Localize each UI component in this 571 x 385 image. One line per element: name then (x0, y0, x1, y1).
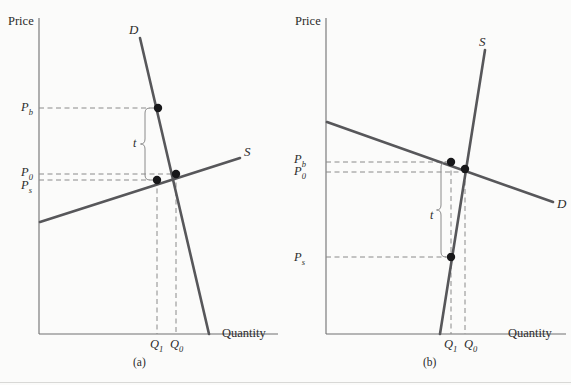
tax-label-b: t (430, 209, 433, 221)
figure-container: Price Quantity D S Pb P0 Ps Q1 Q0 t (a) (0, 0, 571, 385)
demand-curve-label-b: D (557, 197, 566, 210)
equilibrium-point-a (172, 170, 180, 178)
qty-tick-q0-a: Q0 (170, 338, 183, 353)
price-tick-pb-a: Pb (21, 101, 33, 116)
axes-b (326, 18, 566, 334)
supply-curve-label-a: S (244, 145, 251, 158)
qty-tick-q0-b: Q0 (464, 338, 477, 353)
y-axis-label-a: Price (8, 15, 34, 28)
qty-tick-q0-b-sub: 0 (473, 344, 477, 354)
x-axis-label-a: Quantity (222, 327, 266, 340)
buyer-price-point-a (154, 104, 162, 112)
qty-tick-q1-a-base: Q (150, 337, 159, 351)
axes-a (39, 18, 278, 334)
supply-curve-b (440, 50, 485, 334)
price-tick-p0-b: P0 (294, 165, 306, 180)
price-tick-ps-a-sub: s (29, 185, 32, 195)
price-tick-ps-a-base: P (21, 178, 29, 192)
panel-caption-b: (b) (423, 357, 436, 369)
demand-curve-label-a: D (129, 23, 138, 36)
price-tick-p0-b-base: P (294, 164, 302, 178)
supply-curve-label-b: S (479, 35, 486, 48)
qty-tick-q1-a: Q1 (150, 338, 163, 353)
qty-tick-q1-b-base: Q (444, 337, 453, 351)
tax-label-a: t (133, 137, 136, 149)
price-tick-pb-a-base: P (21, 100, 29, 114)
tax-bracket-b (437, 162, 447, 257)
qty-tick-q0-a-base: Q (170, 337, 179, 351)
x-axis-label-b: Quantity (508, 327, 552, 340)
qty-tick-q1-b-sub: 1 (453, 344, 457, 354)
panel-caption-a: (a) (133, 357, 146, 369)
equilibrium-point-b (461, 165, 469, 173)
qty-tick-q0-a-sub: 0 (179, 344, 183, 354)
price-tick-ps-b-base: P (294, 250, 302, 264)
panel-a: Price Quantity D S Pb P0 Ps Q1 Q0 t (a) (0, 0, 285, 385)
price-tick-p0-a-base: P (21, 165, 29, 179)
seller-price-point-b (447, 253, 455, 261)
qty-tick-q1-b: Q1 (444, 338, 457, 353)
price-tick-ps-b-sub: s (302, 257, 305, 267)
tax-bracket-a (141, 108, 151, 180)
price-tick-ps-a: Ps (21, 179, 32, 194)
price-tick-pb-a-sub: b (29, 107, 33, 117)
price-tick-p0-b-sub: 0 (302, 171, 306, 181)
panel-b: Price Quantity S D Pb P0 Ps Q1 Q0 t (b) (286, 0, 571, 385)
buyer-price-point-b (447, 158, 455, 166)
qty-tick-q0-b-base: Q (464, 337, 473, 351)
qty-tick-q1-a-sub: 1 (159, 344, 163, 354)
y-axis-label-b: Price (295, 15, 321, 28)
guide-lines-a (39, 108, 176, 334)
price-tick-ps-b: Ps (294, 251, 305, 266)
bottom-rule (0, 382, 571, 383)
supply-curve-a (40, 158, 240, 222)
seller-price-point-a (153, 176, 161, 184)
